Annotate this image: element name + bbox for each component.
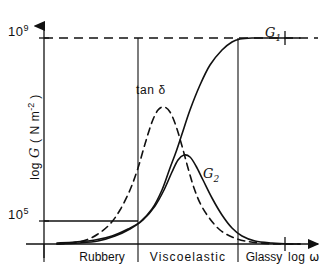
y-tick-bottom-mantissa: 10 — [8, 207, 23, 222]
y-tick-label-top: 109 — [8, 24, 28, 38]
y-axis-title: log G ( N m-2 ) — [27, 67, 41, 207]
y-axis-title-units: ( N m — [28, 111, 42, 147]
g1-label: G1 — [265, 24, 281, 43]
y-axis-title-units-exponent: -2 — [26, 103, 36, 111]
x-axis-title-prefix: log — [288, 250, 309, 264]
tan-delta-label: tan δ — [136, 84, 166, 96]
g2-subscript: 2 — [213, 174, 219, 184]
curve-g1 — [57, 38, 300, 243]
y-axis-title-units-end: ) — [28, 94, 42, 103]
y-tick-label-bottom: 105 — [8, 207, 28, 221]
region-label-rubbery: Rubbery — [66, 251, 138, 263]
x-axis-title: log ω — [288, 251, 320, 263]
g1-symbol: G — [265, 25, 275, 40]
g2-symbol: G — [203, 166, 213, 181]
g2-label: G2 — [203, 165, 219, 184]
y-tick-top-mantissa: 10 — [8, 24, 23, 39]
region-label-glassy: Glassy — [238, 251, 290, 263]
y-tick-bottom-exponent: 5 — [23, 206, 28, 216]
chart-figure: 109 105 log G ( N m-2 ) tan δ G1 G2 Rubb… — [0, 0, 332, 275]
curve-g2 — [57, 155, 300, 244]
y-axis-title-symbol: G — [27, 147, 42, 158]
chart-plot-area — [0, 0, 332, 275]
region-label-viscoelastic: Viscoelastic — [138, 251, 238, 263]
g1-subscript: 1 — [275, 33, 281, 43]
y-axis-title-prefix: log — [28, 158, 42, 180]
y-tick-top-exponent: 9 — [23, 23, 28, 33]
curve-tan-delta — [57, 107, 300, 244]
x-axis-title-symbol: ω — [309, 250, 320, 264]
